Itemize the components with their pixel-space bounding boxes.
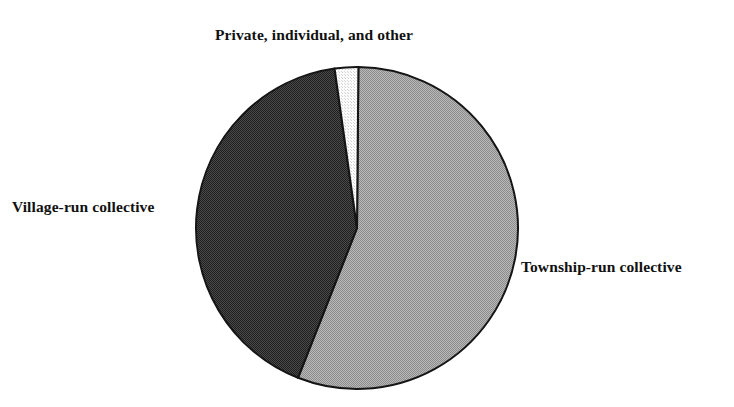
pie-label-private-individual-other: Private, individual, and other [196, 26, 432, 45]
pie-label-township-run-collective: Township-run collective [521, 258, 682, 277]
pie-slices [196, 67, 518, 389]
pie-label-village-run-collective: Village-run collective [12, 198, 154, 217]
pie-chart-figure: Private, individual, and other Village-r… [0, 0, 734, 407]
chart-page: Private, individual, and other Village-r… [0, 0, 734, 407]
